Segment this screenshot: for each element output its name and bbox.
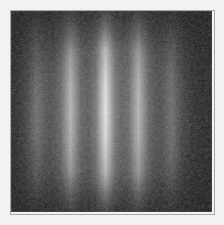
photographic-plate: [11, 11, 212, 212]
interference-photograph-page: [0, 0, 224, 225]
fringe-field: [11, 11, 212, 212]
fringe-m-zero: [81, 11, 130, 212]
fringe-m-minus-2: [11, 11, 63, 212]
fringe-m-plus-2: [145, 11, 199, 212]
fringe-m-minus-1: [45, 11, 96, 212]
fringe-m-plus-1: [113, 11, 164, 212]
